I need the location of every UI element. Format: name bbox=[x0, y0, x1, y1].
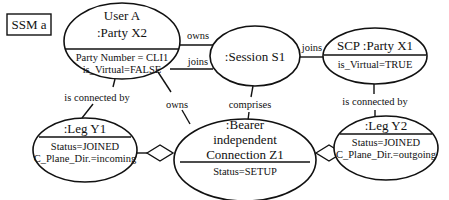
leg-y2-c-plane-dir: C_Plane_Dir.=outgoing bbox=[336, 149, 437, 160]
owns-session-label: owns bbox=[187, 30, 209, 41]
leg-y1-c-plane-dir: C_Plane_Dir.=incoming bbox=[34, 153, 137, 164]
scp-joins-label: joins bbox=[301, 42, 322, 53]
bearer-name-line1: :Bearer bbox=[226, 117, 265, 132]
owns-bearer-line-bottom bbox=[182, 110, 190, 124]
user-leg-line-top bbox=[113, 79, 115, 87]
comprises-label: comprises bbox=[229, 99, 272, 110]
ssm-diagram: SSM a owns joins joins is connected by bbox=[0, 0, 449, 200]
leg-y2-name: :Leg Y2 bbox=[365, 118, 407, 133]
node-leg-y2: :Leg Y2 Status=JOINED C_Plane_Dir.=outgo… bbox=[334, 116, 438, 180]
scp-connected-label: is connected by bbox=[342, 96, 408, 107]
user-connected-label: is connected by bbox=[64, 92, 130, 103]
node-scp-party-x1: SCP :Party X1 is_Virtual=TRUE bbox=[323, 28, 427, 84]
user-a-name: User A bbox=[104, 8, 141, 23]
leg-y1-status: Status=JOINED bbox=[51, 141, 120, 152]
node-leg-y1: :Leg Y1 Status=JOINED C_Plane_Dir.=incom… bbox=[33, 118, 137, 182]
ssm-title-box: SSM a bbox=[7, 14, 51, 35]
node-user-a: User A :Party X2 Party Number = CLI1 is_… bbox=[64, 3, 180, 79]
owns-bearer-line-top bbox=[158, 72, 171, 92]
scp-name: SCP :Party X1 bbox=[337, 38, 413, 53]
user-leg-line-bottom bbox=[82, 104, 93, 118]
joins-session-label: joins bbox=[187, 56, 208, 67]
scp-is-virtual: is_Virtual=TRUE bbox=[338, 59, 413, 70]
session-name: :Session S1 bbox=[225, 49, 285, 64]
leg-y2-status: Status=JOINED bbox=[352, 137, 421, 148]
bearer-name-line3: Connection Z1 bbox=[206, 147, 284, 162]
user-a-is-virtual: is_Virtual=FALSE bbox=[83, 64, 162, 75]
owns-bearer-label: owns bbox=[166, 99, 188, 110]
bearer-name-line2: independent bbox=[213, 132, 277, 147]
user-a-type: :Party X2 bbox=[97, 25, 147, 40]
bearer-status: Status=SETUP bbox=[213, 166, 277, 177]
leg-y1-aggregation-diamond-icon bbox=[147, 145, 173, 161]
leg-y1-name: :Leg Y1 bbox=[64, 121, 106, 136]
user-a-party-number: Party Number = CLI1 bbox=[76, 52, 169, 63]
node-session-s1: :Session S1 bbox=[210, 26, 300, 86]
comprises-line-top bbox=[251, 86, 253, 97]
node-bearer-connection-z1: :Bearer independent Connection Z1 Status… bbox=[174, 117, 316, 200]
ssm-title: SSM a bbox=[11, 17, 46, 32]
